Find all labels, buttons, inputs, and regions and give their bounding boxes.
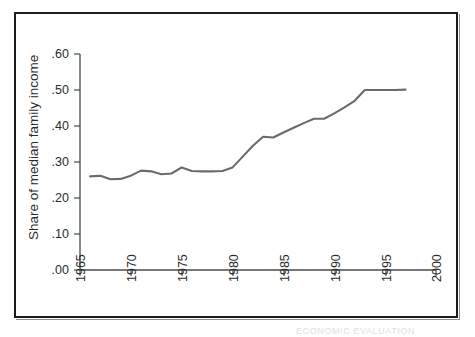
scan-artifact-text: ECONOMIC EVALUATION <box>296 326 475 337</box>
x-tick-label-1995: 1995 <box>380 254 394 282</box>
y-tick-label-040: .40 <box>52 119 69 133</box>
x-axis-ticks: 1965 1970 1975 1980 1985 1990 1995 2000 <box>74 254 444 282</box>
y-axis-ticks: .60 .50 .40 .30 .20 .10 .00 <box>52 47 80 277</box>
line-chart: Share of median family income .60 .50 .4… <box>16 14 456 316</box>
data-series-line <box>90 90 405 180</box>
x-tick-label-1980: 1980 <box>227 254 241 282</box>
chart-screenshot: Share of median family income .60 .50 .4… <box>0 0 475 337</box>
x-tick-label-1965: 1965 <box>74 254 88 282</box>
y-tick-label-010: .10 <box>52 227 69 241</box>
x-tick-label-1990: 1990 <box>329 254 343 282</box>
x-tick-label-1970: 1970 <box>125 254 139 282</box>
y-tick-label-020: .20 <box>52 191 69 205</box>
y-tick-label-050: .50 <box>52 83 69 97</box>
y-tick-label-030: .30 <box>52 155 69 169</box>
x-tick-label-1975: 1975 <box>176 254 190 282</box>
y-tick-label-060: .60 <box>52 47 69 61</box>
y-tick-label-000: .00 <box>52 263 69 277</box>
y-axis-title: Share of median family income <box>26 55 41 240</box>
x-tick-label-2000: 2000 <box>430 254 444 282</box>
figure-frame: Share of median family income .60 .50 .4… <box>14 12 458 318</box>
x-tick-label-1985: 1985 <box>278 254 292 282</box>
